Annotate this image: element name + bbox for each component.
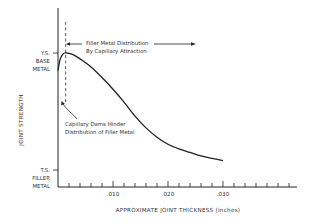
ys_base_metal-label: METAL [32, 66, 50, 72]
x-ticks [69, 181, 289, 187]
right-arrow-head-icon [191, 42, 196, 46]
joint-strength-diagram: .010.020.030 Y.S.BASEMETALT.S.FILLERMETA… [0, 0, 317, 224]
x-tick-label: .030 [217, 191, 230, 197]
x-tick-label: .010 [107, 191, 120, 197]
joint-strength-curve [58, 53, 223, 161]
x-tick-label: .020 [162, 191, 175, 197]
filler-annotation-line-2: By Capillary Attraction [86, 48, 147, 55]
x-axis-title: APPROXIMATE JOINT THICKNESS (inches) [116, 207, 241, 214]
capillary-dams-annotation: Capillary Dams Hinder Distribution of Fi… [61, 101, 134, 135]
ts_filler_metal-label: T.S. [39, 167, 50, 173]
ys_base_metal-label: BASE [36, 58, 51, 64]
ys_base_metal-label: Y.S. [40, 50, 50, 56]
capillary-annotation-line-1: Capillary Dams Hinder [65, 121, 126, 128]
y-levels: Y.S.BASEMETALT.S.FILLERMETAL [32, 50, 58, 189]
ts_filler_metal-label: METAL [32, 183, 50, 189]
capillary-leader-line [63, 104, 77, 119]
ts_filler_metal-label: FILLER [32, 175, 50, 181]
y-axis-title: JOINT STRENGTH [18, 94, 25, 147]
filler-annotation-line-1: Filler Metal Distribution [86, 40, 149, 46]
capillary-annotation-line-2: Distribution of Filler Metal [65, 129, 134, 135]
left-arrow-head-icon [66, 42, 70, 46]
filler-distribution-annotation: Filler Metal Distribution By Capillary A… [66, 40, 196, 55]
x-tick-labels: .010.020.030 [107, 191, 230, 197]
capillary-arrow-head-icon [61, 101, 65, 106]
